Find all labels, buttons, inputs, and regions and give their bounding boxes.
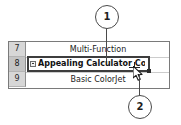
- table-row[interactable]: 9 Basic ColorJet: [9, 72, 169, 87]
- screenshot-stage: 1 2 7 Multi-Function 8 9 Basic ColorJet: [0, 0, 181, 125]
- callout-badge-2: 2: [128, 95, 152, 119]
- cell-value-row-9[interactable]: Basic ColorJet: [27, 72, 169, 87]
- callout-2-leader-line: [139, 74, 140, 96]
- callout-badge-1: 1: [95, 5, 119, 29]
- fill-handle[interactable]: [147, 69, 151, 73]
- cell-value-row-7[interactable]: Multi-Function: [27, 42, 169, 57]
- table-row[interactable]: 7 Multi-Function: [9, 42, 169, 57]
- row-header-7[interactable]: 7: [9, 42, 26, 57]
- spreadsheet-grid: 7 Multi-Function 8 9 Basic ColorJet Appe…: [8, 41, 170, 89]
- callout-1-leader-line: [106, 28, 107, 61]
- minus-box-icon[interactable]: [30, 61, 36, 67]
- row-header-8[interactable]: 8: [9, 57, 26, 72]
- row-header-9[interactable]: 9: [9, 72, 26, 87]
